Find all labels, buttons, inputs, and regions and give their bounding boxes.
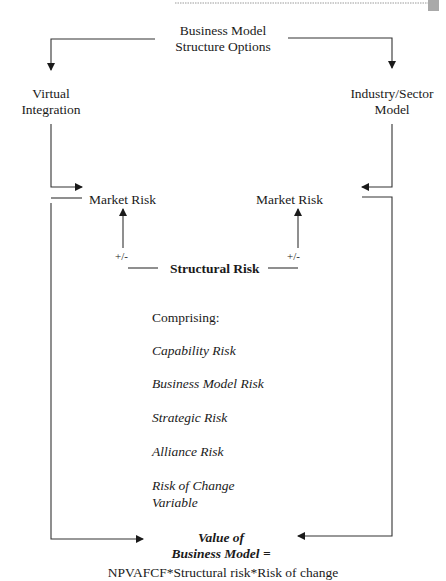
virtual-integration-label: Virtual Integration — [6, 86, 96, 118]
virtual-line-2: Integration — [6, 102, 96, 118]
component-variable: Variable — [152, 495, 198, 511]
component-capability-risk: Capability Risk — [152, 343, 236, 359]
plus-minus-right: +/- — [287, 248, 300, 264]
component-risk-of-change: Risk of Change — [152, 478, 235, 494]
comprising-label: Comprising: — [152, 310, 220, 326]
industry-line-1: Industry/Sector — [340, 86, 444, 102]
value-of-business-model: Value of Business Model = — [148, 530, 294, 562]
arrow-industry-to-market-risk — [362, 124, 392, 187]
structural-risk-label: Structural Risk — [170, 261, 260, 277]
industry-line-2: Model — [340, 102, 444, 118]
arrow-virtual-to-market-risk — [51, 124, 82, 187]
market-risk-right: Market Risk — [256, 192, 323, 208]
arrow-right-to-value — [298, 197, 392, 536]
business-model-options-title: Business Model Structure Options — [160, 23, 286, 55]
value-formula: NPVAFCF*Structural risk*Risk of change — [80, 565, 366, 581]
arrow-to-virtual-integration — [51, 39, 155, 70]
arrow-left-loop-to-value — [51, 203, 143, 539]
title-line-2: Structure Options — [160, 39, 286, 55]
value-line-1: Value of — [148, 530, 294, 546]
plus-minus-left: +/- — [115, 248, 128, 264]
market-risk-left: Market Risk — [89, 192, 156, 208]
industry-sector-model-label: Industry/Sector Model — [340, 86, 444, 118]
component-alliance-risk: Alliance Risk — [152, 444, 224, 460]
corner-block — [428, 0, 439, 11]
title-line-1: Business Model — [160, 23, 286, 39]
component-strategic-risk: Strategic Risk — [152, 410, 227, 426]
component-business-model-risk: Business Model Risk — [152, 376, 264, 392]
arrow-to-industry-sector — [288, 38, 392, 68]
value-line-2: Business Model = — [148, 546, 294, 562]
virtual-line-1: Virtual — [6, 86, 96, 102]
